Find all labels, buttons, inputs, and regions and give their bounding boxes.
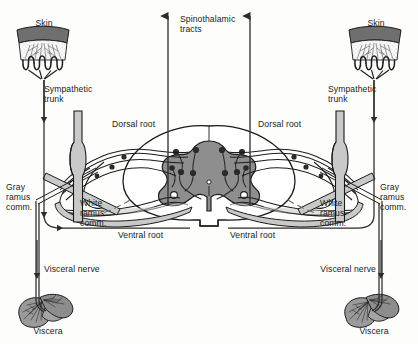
label-viscera-left: Viscera: [20, 326, 76, 336]
label-viscera-right: Viscera: [346, 326, 402, 336]
label-gray-ramus-right: Gray ramus comm.: [380, 182, 418, 213]
label-ventral-root-right: Ventral root: [230, 230, 298, 240]
label-white-ramus-right: White ramus comm.: [320, 198, 364, 229]
label-dorsal-root-right: Dorsal root: [258, 119, 320, 129]
label-visceral-nerve-left: Visceral nerve: [44, 264, 130, 274]
anatomy-figure: [0, 0, 418, 344]
label-gray-ramus-left: Gray ramus comm.: [6, 182, 50, 213]
label-skin-left: Skin: [20, 18, 68, 28]
label-sympathetic-trunk-right: Sympathetic trunk: [328, 84, 392, 104]
label-dorsal-root-left: Dorsal root: [112, 119, 174, 129]
label-spinothalamic-tracts: Spinothalamic tracts: [180, 14, 256, 34]
label-white-ramus-left: White ramus comm.: [80, 198, 124, 229]
label-sympathetic-trunk-left: Sympathetic trunk: [44, 84, 106, 104]
diagram-canvas: Skin Skin Spinothalamic tracts Sympathet…: [0, 0, 418, 344]
spinal-cord: [123, 126, 295, 226]
label-ventral-root-left: Ventral root: [118, 230, 186, 240]
label-visceral-nerve-right: Visceral nerve: [290, 264, 376, 274]
label-skin-right: Skin: [352, 18, 400, 28]
